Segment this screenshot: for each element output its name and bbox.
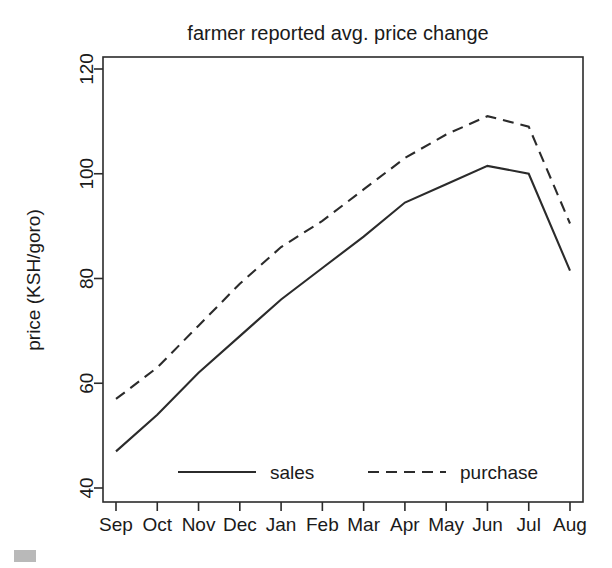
plot-frame bbox=[103, 57, 583, 502]
x-tick-label: Jul bbox=[517, 514, 541, 535]
line-chart: farmer reported avg. price change price … bbox=[0, 0, 612, 568]
series-line-sales bbox=[116, 166, 570, 451]
chart-figure: farmer reported avg. price change price … bbox=[0, 0, 612, 568]
y-tick-label: 60 bbox=[76, 373, 97, 394]
x-tick-label: Mar bbox=[347, 514, 380, 535]
legend-label-purchase: purchase bbox=[460, 462, 538, 483]
chart-legend: salespurchase bbox=[178, 462, 538, 483]
x-tick-label: Aug bbox=[553, 514, 587, 535]
x-tick-label: Jun bbox=[472, 514, 503, 535]
x-tick-label: Apr bbox=[390, 514, 420, 535]
chart-title: farmer reported avg. price change bbox=[187, 22, 488, 44]
x-tick-label: Oct bbox=[142, 514, 172, 535]
y-tick-label: 80 bbox=[76, 268, 97, 289]
x-tick-label: Nov bbox=[182, 514, 216, 535]
y-tick-label: 40 bbox=[76, 477, 97, 498]
y-axis-title: price (KSH/goro) bbox=[23, 209, 44, 351]
x-axis-ticks: SepOctNovDecJanFebMarAprMayJunJulAug bbox=[99, 502, 587, 535]
x-tick-label: Sep bbox=[99, 514, 133, 535]
x-tick-label: May bbox=[428, 514, 464, 535]
x-tick-label: Dec bbox=[223, 514, 257, 535]
series-lines bbox=[116, 116, 570, 451]
legend-label-sales: sales bbox=[270, 462, 314, 483]
scan-corner-mark bbox=[14, 550, 38, 564]
x-tick-label: Jan bbox=[266, 514, 297, 535]
y-axis-ticks: 406080100120 bbox=[76, 53, 103, 498]
y-tick-label: 100 bbox=[76, 158, 97, 190]
series-line-purchase bbox=[116, 116, 570, 399]
y-tick-label: 120 bbox=[76, 53, 97, 85]
x-tick-label: Feb bbox=[306, 514, 339, 535]
